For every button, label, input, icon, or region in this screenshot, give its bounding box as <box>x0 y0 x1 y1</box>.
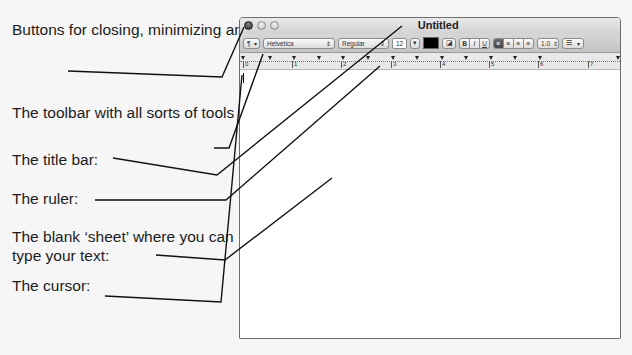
highlight-color-well[interactable]: ◪ <box>442 38 456 49</box>
callout-cursor: The cursor: <box>12 276 90 295</box>
text-cursor <box>243 73 244 83</box>
tab-stop-marker[interactable] <box>513 56 517 60</box>
list-style-popup[interactable]: ☰▾ <box>562 38 584 49</box>
ruler-number: 2 <box>343 61 346 67</box>
chevron-down-icon: ▾ <box>574 40 580 47</box>
typeface-popup[interactable]: Regular⇕ <box>338 38 389 49</box>
ruler[interactable]: 0 1 2 3 4 5 6 7 <box>240 53 620 70</box>
ruler-number: 0 <box>245 61 248 67</box>
line-spacing-value: 1.0 <box>541 40 550 47</box>
ruler-tick <box>489 61 490 68</box>
font-family-value: Helvetica <box>267 40 294 47</box>
stepper-icon: ⇕ <box>550 40 558 47</box>
tab-stop-marker[interactable] <box>366 56 370 60</box>
tab-stop-marker[interactable] <box>415 56 419 60</box>
ruler-number: 6 <box>540 61 543 67</box>
chevron-down-icon: ▾ <box>413 39 417 47</box>
tab-stop-marker[interactable] <box>317 56 321 60</box>
window-buttons <box>244 21 279 30</box>
tab-stop-marker[interactable] <box>489 56 493 60</box>
tab-stop-marker[interactable] <box>440 56 444 60</box>
ruler-tick <box>292 61 293 68</box>
callout-ruler: The ruler: <box>12 189 78 208</box>
document-sheet[interactable] <box>240 70 620 338</box>
align-right-icon: ≡ <box>517 40 521 47</box>
font-family-popup[interactable]: Helvetica⇕ <box>263 38 335 49</box>
ruler-number: 1 <box>294 61 297 67</box>
tab-stop-marker[interactable] <box>538 56 542 60</box>
minimize-button[interactable] <box>257 21 266 30</box>
maximize-button[interactable] <box>270 21 279 30</box>
ruler-number: 3 <box>393 61 396 67</box>
underline-button[interactable]: U <box>479 38 490 49</box>
font-size-field[interactable]: 12 <box>392 38 407 49</box>
alignment-group: ≡ ≡ ≡ ≡ <box>493 38 534 49</box>
align-center-icon: ≡ <box>507 40 511 47</box>
ruler-number: 4 <box>442 61 445 67</box>
align-justify-icon: ≡ <box>527 40 531 47</box>
chevron-down-icon: ▾ <box>251 40 257 47</box>
ruler-tick <box>391 61 392 68</box>
paragraph-style-popup[interactable]: ¶▾ <box>243 38 260 49</box>
window-title: Untitled <box>418 19 459 31</box>
title-bar[interactable]: Untitled <box>240 18 620 34</box>
typeface-value: Regular <box>342 40 365 47</box>
tab-stop-marker[interactable] <box>268 56 272 60</box>
first-line-indent-marker[interactable] <box>241 56 245 60</box>
line-spacing-popup[interactable]: 1.0⇕ <box>537 38 559 49</box>
list-icon: ☰ <box>566 39 572 47</box>
ruler-number: 5 <box>491 61 494 67</box>
ruler-tick <box>341 61 342 68</box>
font-size-value: 12 <box>396 40 403 47</box>
format-toolbar: ¶▾ Helvetica⇕ Regular⇕ 12 ▾ ◪ B I U ≡ ≡ … <box>240 34 620 53</box>
ruler-tick <box>588 61 589 68</box>
callout-sheet: The blank ‘sheet’ where you can type you… <box>12 227 242 265</box>
ruler-tick <box>243 61 244 68</box>
tab-stop-marker[interactable] <box>391 56 395 60</box>
highlight-icon: ◪ <box>446 39 453 47</box>
ruler-tick <box>440 61 441 68</box>
text-style-group: B I U <box>459 38 490 49</box>
tab-stop-marker[interactable] <box>341 56 345 60</box>
close-button[interactable] <box>244 21 253 30</box>
align-left-icon: ≡ <box>497 40 501 47</box>
callout-title-bar: The title bar: <box>12 150 98 169</box>
ruler-number: 7 <box>590 61 593 67</box>
tab-stop-marker[interactable] <box>292 56 296 60</box>
align-justify-button[interactable]: ≡ <box>523 38 534 49</box>
stepper-icon: ⇕ <box>377 40 385 47</box>
text-color-well[interactable] <box>423 37 439 49</box>
stepper-icon: ⇕ <box>323 40 331 47</box>
tab-stop-marker[interactable] <box>464 56 468 60</box>
ruler-tick <box>538 61 539 68</box>
font-size-menu[interactable]: ▾ <box>410 38 420 49</box>
right-margin-marker[interactable] <box>616 56 620 60</box>
textedit-window: Untitled ¶▾ Helvetica⇕ Regular⇕ 12 ▾ ◪ B… <box>239 17 621 339</box>
